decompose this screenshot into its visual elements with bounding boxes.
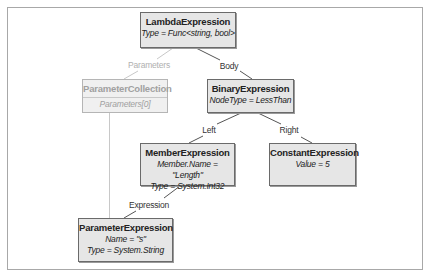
edge-label-parameters: Parameters [128, 60, 170, 70]
node-prop: Type = Func<string, bool> [141, 28, 235, 39]
node-prop: Type = System.String [79, 245, 172, 256]
node-title: ConstantExpression [270, 147, 355, 159]
node-prop: Name = "s" [79, 234, 172, 245]
edge-label-body: Body [220, 61, 239, 71]
node-prop: NodeType = LessThan [208, 95, 293, 106]
node-prop: Type = System.Int32 [141, 181, 234, 192]
node-lambda-expression: LambdaExpression Type = Func<string, boo… [140, 12, 236, 48]
node-parameter-collection: ParameterCollection Parameters[0] [82, 79, 168, 113]
node-binary-expression: BinaryExpression NodeType = LessThan [207, 79, 294, 113]
edge-line-body-top [196, 48, 220, 60]
edge-line-left-top [217, 113, 241, 124]
node-divider [83, 97, 167, 98]
edge-line-parameters-top [157, 48, 173, 59]
node-member-expression: MemberExpression Member.Name = "Length" … [140, 143, 235, 186]
edge-label-expression: Expression [129, 200, 169, 210]
node-title: LambdaExpression [141, 16, 235, 28]
node-title: BinaryExpression [208, 83, 293, 95]
node-title: MemberExpression [141, 147, 234, 159]
node-prop: Parameters[0] [83, 99, 167, 110]
edge-label-left: Left [202, 125, 215, 135]
node-prop: Value = 5 [270, 159, 355, 170]
node-constant-expression: ConstantExpression Value = 5 [269, 143, 356, 186]
edge-line-right-top [258, 113, 281, 124]
edge-label-right: Right [280, 125, 299, 135]
node-parameter-expression: ParameterExpression Name = "s" Type = Sy… [78, 218, 173, 262]
node-title: ParameterCollection [83, 83, 167, 95]
edge-line-body-bottom [240, 71, 252, 79]
node-prop: Member.Name = "Length" [141, 159, 234, 181]
edge-line-expression-bottom [124, 211, 136, 218]
edge-line-parameters-bottom [124, 71, 138, 79]
edge-line-left-bottom [189, 136, 203, 143]
node-title: ParameterExpression [79, 222, 172, 234]
